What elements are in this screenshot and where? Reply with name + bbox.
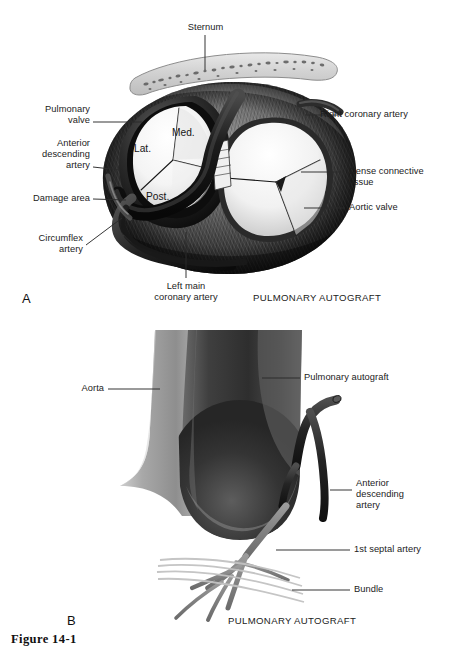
panel-a-subtitle: PULMONARY AUTOGRAFT	[253, 292, 381, 303]
label-circumflex-artery: Circumflex artery	[0, 233, 83, 255]
figure-container: Sternum Pulmonary valve Anterior descend…	[0, 0, 461, 659]
label-anterior-descending-artery-b: Anterior descending artery	[356, 478, 456, 512]
label-1st-septal-artery: 1st septal artery	[354, 544, 459, 555]
label-medial-cusp: Med.	[172, 127, 195, 138]
figure-caption: Figure 14-1	[11, 632, 77, 647]
panel-letter-a: A	[22, 291, 31, 306]
label-posterior-cusp: Post.	[146, 191, 169, 202]
label-dense-connective-tissue: Dense connective tissue	[349, 166, 461, 188]
label-sternum: Sternum	[168, 22, 243, 33]
pulmonary-autograft-body	[170, 330, 310, 540]
label-aortic-valve: Aortic valve	[349, 202, 449, 213]
label-right-coronary-artery: Right coronary artery	[320, 109, 460, 120]
panel-letter-b: B	[67, 613, 76, 628]
panel-a-artwork	[95, 53, 370, 290]
label-left-main-coronary-artery: Left main coronary artery	[118, 281, 254, 303]
label-damage-area: Damage area	[0, 193, 90, 204]
medical-illustration-artwork	[0, 0, 461, 659]
label-lateral-cusp: Lat.	[134, 143, 151, 154]
label-aorta: Aorta	[30, 383, 104, 394]
label-bundle: Bundle	[354, 584, 424, 595]
label-pulmonary-valve: Pulmonary valve	[0, 104, 90, 126]
label-anterior-descending-artery: Anterior descending artery	[0, 138, 90, 172]
panel-b-subtitle: PULMONARY AUTOGRAFT	[228, 615, 356, 626]
label-pulmonary-autograft: Pulmonary autograft	[304, 372, 454, 383]
